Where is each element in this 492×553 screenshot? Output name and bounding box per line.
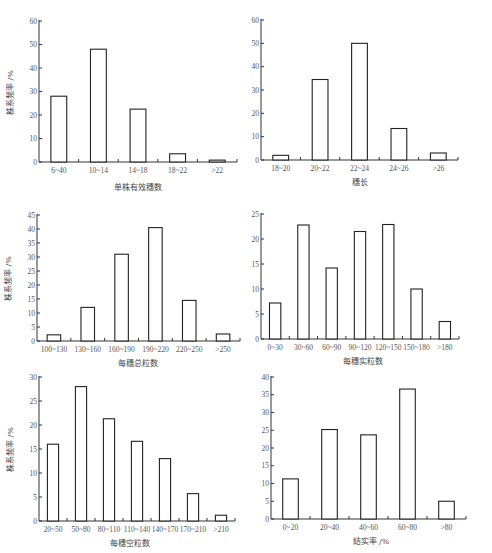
- y-tick-label: 10: [262, 479, 270, 488]
- y-tick-label: 35: [262, 390, 270, 399]
- y-tick-label: 0: [265, 515, 269, 524]
- bar: [361, 435, 377, 519]
- y-tick-label: 5: [265, 497, 269, 506]
- bar: [400, 389, 416, 519]
- bar: [322, 430, 338, 519]
- bar: [439, 501, 455, 519]
- y-tick-label: 40: [262, 373, 270, 382]
- y-tick-label: 15: [262, 461, 270, 470]
- y-tick-label: 20: [262, 444, 270, 453]
- x-axis-title: 结实率 /%: [331, 535, 411, 546]
- x-tick-label: >80: [441, 523, 453, 532]
- x-tick-label: 20~40: [320, 523, 339, 532]
- bar: [283, 479, 299, 519]
- x-tick-label: 40~60: [359, 523, 378, 532]
- x-tick-label: 0~20: [283, 523, 299, 532]
- y-tick-label: 30: [262, 408, 270, 417]
- x-tick-label: 60~80: [398, 523, 417, 532]
- y-tick-label: 25: [262, 426, 270, 435]
